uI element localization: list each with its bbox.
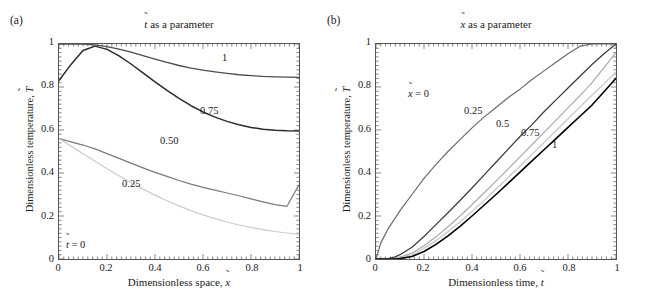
panel-a-letter: (a) — [10, 14, 23, 26]
panel-b-xtick-0: 0 — [355, 262, 395, 273]
panel-a-zero-label: t˜ = 0 — [66, 239, 85, 250]
panel-a-xtick-5: 1 — [280, 262, 320, 273]
panel-b-letter: (b) — [327, 14, 340, 26]
panel-b-curve-label-05: 0.5 — [496, 118, 509, 129]
panel-a: (a) t˜ as a parameter Dimensionless temp… — [0, 0, 322, 299]
panel-b-ytick-1: 0.2 — [335, 210, 371, 221]
panel-b-curve-label-075: 0.75 — [521, 127, 539, 138]
panel-a-title: t˜ as a parameter — [58, 18, 300, 30]
xlabel-var-t-tilde: t˜ — [541, 276, 544, 288]
panel-a-curve-label-025: 0.25 — [122, 178, 140, 189]
panel-a-curves — [59, 44, 299, 259]
zero-label-var-t-tilde: t˜ — [66, 239, 69, 250]
panel-a-ytick-3: 0.6 — [18, 123, 54, 134]
panel-b-xtick-5: 1 — [597, 262, 637, 273]
panel-b: (b) x˜ as a parameter Dimensionless temp… — [323, 0, 645, 299]
first-label-var-x-tilde: x˜ — [408, 88, 413, 99]
panel-b-xtick-3: 0.6 — [500, 262, 540, 273]
panel-b-curves — [376, 44, 616, 259]
panel-a-xtick-4: 0.8 — [232, 262, 272, 273]
panel-b-curve-label-1: 1 — [552, 139, 557, 150]
panel-b-xtick-4: 0.8 — [549, 262, 589, 273]
panel-b-title: x˜ as a parameter — [375, 18, 617, 30]
title-var-t-tilde: t˜ — [144, 18, 147, 30]
panel-b-curve-label-0: x˜ = 0 — [408, 88, 429, 99]
panel-b-x-axis-label: Dimensionless time, t˜ — [375, 276, 617, 288]
panel-a-x-axis-label: Dimensionless space, x˜ — [58, 276, 300, 288]
panel-a-curve-label-1: 1 — [222, 52, 227, 63]
panel-b-plot-area — [375, 43, 617, 260]
panel-b-ytick-3: 0.6 — [335, 123, 371, 134]
panel-a-ytick-1: 0.2 — [18, 210, 54, 221]
panel-a-curve-label-050: 0.50 — [160, 135, 178, 146]
panel-b-ytick-2: 0.4 — [335, 166, 371, 177]
panel-b-curve-label-025: 0.25 — [464, 105, 482, 116]
panel-b-xtick-1: 0.2 — [403, 262, 443, 273]
panel-a-ytick-5: 1 — [18, 36, 54, 47]
panel-a-xtick-2: 0.4 — [135, 262, 175, 273]
title-var-x-tilde: x˜ — [460, 18, 465, 30]
panel-b-ytick-4: 0.8 — [335, 79, 371, 90]
panel-a-xtick-0: 0 — [38, 262, 78, 273]
panel-a-xtick-1: 0.2 — [86, 262, 126, 273]
panel-a-ytick-4: 0.8 — [18, 79, 54, 90]
panel-a-plot-area — [58, 43, 300, 260]
panel-a-xtick-3: 0.6 — [183, 262, 223, 273]
panel-a-ytick-2: 0.4 — [18, 166, 54, 177]
xlabel-var-x-tilde: x˜ — [225, 276, 230, 288]
panel-b-ytick-5: 1 — [335, 36, 371, 47]
panel-b-xtick-2: 0.4 — [452, 262, 492, 273]
panel-a-curve-label-075: 0.75 — [200, 105, 218, 116]
